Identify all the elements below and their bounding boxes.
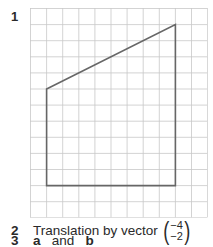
part-b: b [86, 233, 94, 247]
right-paren-icon: ) [184, 218, 190, 244]
question-1-number: 1 [11, 9, 18, 24]
left-paren-icon: ( [163, 218, 169, 244]
grid-diagram [30, 8, 208, 222]
answer-3: 3a and b [11, 233, 94, 247]
vector-bottom: −2 [170, 231, 183, 242]
trapezoid-on-grid [30, 8, 208, 218]
part-a: a [33, 233, 41, 247]
column-vector: ( −4 −2 ) [162, 218, 192, 244]
question-3-number: 3 [11, 233, 33, 247]
joiner-text: and [52, 233, 75, 247]
